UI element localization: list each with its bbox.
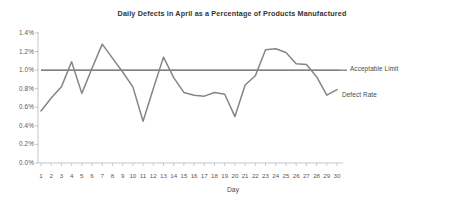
x-tick-label: 30 <box>331 172 343 179</box>
y-tick-label: 0.6% <box>8 103 34 110</box>
x-axis-title: Day <box>0 186 458 193</box>
x-axis-tick-marks <box>41 163 337 166</box>
defect-rate-series <box>41 44 337 121</box>
y-tick-label: 0.0% <box>8 159 34 166</box>
y-tick-label: 0.4% <box>8 122 34 129</box>
y-tick-label: 0.2% <box>8 140 34 147</box>
y-tick-label: 0.8% <box>8 85 34 92</box>
chart-container: Daily Defects in April as a Percentage o… <box>0 0 458 208</box>
defect-rate-legend-label: Defect Rate <box>342 91 377 98</box>
y-tick-label: 1.0% <box>8 66 34 73</box>
y-axis-tick-marks <box>35 33 38 163</box>
acceptable-limit-legend-label: Acceptable Limit <box>350 65 399 72</box>
y-tick-label: 1.4% <box>8 29 34 36</box>
y-tick-label: 1.2% <box>8 48 34 55</box>
